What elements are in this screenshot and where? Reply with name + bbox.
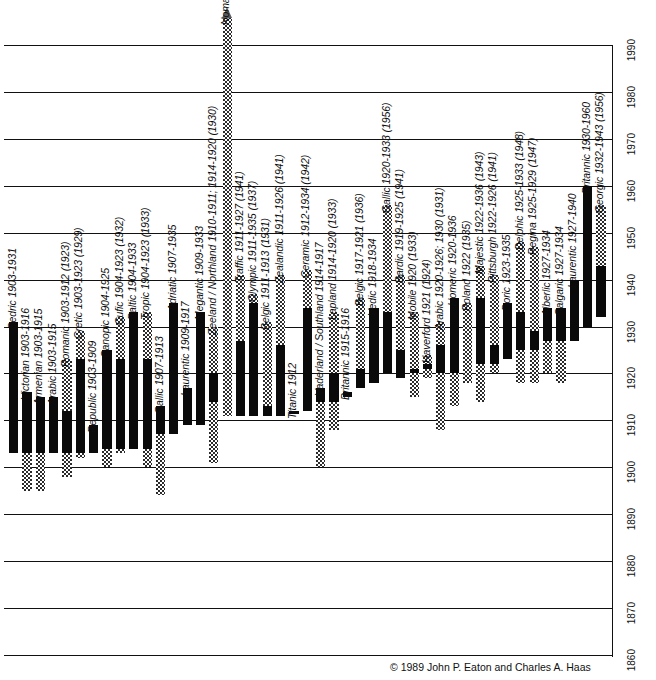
bar-label-2: Armenian 1903-1915 bbox=[32, 309, 44, 405]
bar-delphic-38 bbox=[516, 242, 525, 383]
bar-segment-later bbox=[276, 275, 285, 345]
bar-laurentic-42 bbox=[570, 280, 579, 341]
bar-alberlic-40 bbox=[543, 308, 552, 374]
plot-area: Cedric 1903-1931Victorian 1903-1916Armen… bbox=[0, 0, 612, 680]
bar-segment-early bbox=[36, 453, 45, 491]
bar-arabic-3 bbox=[49, 397, 58, 453]
bar-label-43: Britannic 1930-1960 bbox=[580, 102, 592, 194]
bar-segment-early bbox=[102, 449, 111, 468]
bar-homeric-33 bbox=[450, 298, 459, 406]
bar-label-5: Cretic 1903-1923 (1929) bbox=[72, 228, 84, 340]
bar-segment-early bbox=[209, 402, 218, 463]
bar-gallic-28 bbox=[383, 205, 392, 374]
bar-vaderland-southland-23 bbox=[316, 388, 325, 468]
bar-label-30: Mobile 1920 (1933) bbox=[406, 232, 418, 321]
bar-segment-service bbox=[570, 280, 579, 341]
y-tick-1910: 1910 bbox=[615, 414, 655, 426]
bar-segment-early bbox=[22, 453, 31, 491]
bar-label-44: Georgic 1932-1943 (1956) bbox=[593, 92, 605, 213]
bar-zeeland-northland-15 bbox=[209, 327, 218, 463]
bar-segment-service bbox=[263, 406, 272, 415]
bar-segment-service bbox=[196, 312, 205, 425]
bar-segment-early bbox=[423, 369, 432, 378]
bar-label-38: Delphic 1925-1933 (1948) bbox=[513, 131, 525, 250]
bar-segment-service bbox=[516, 312, 525, 350]
bar-label-28: Gallic 1920-1933 (1956) bbox=[380, 102, 392, 212]
bar-segment-service bbox=[476, 298, 485, 364]
bar-segment-service bbox=[209, 373, 218, 401]
bar-label-17: Traffic 1911-1927 (1941) bbox=[233, 171, 245, 283]
gridline-1890 bbox=[4, 514, 612, 515]
bar-romanic-4 bbox=[62, 359, 71, 476]
gridline-1980 bbox=[4, 92, 612, 93]
bar-megantic-14 bbox=[196, 312, 205, 425]
bar-label-29: Bardic 1919-1925 (1941) bbox=[393, 169, 405, 283]
bar-label-13: Laurentic 1909-1917 bbox=[179, 301, 191, 395]
bar-gallic-11 bbox=[156, 406, 165, 495]
bar-pittsburgh-36 bbox=[490, 275, 499, 374]
bar-label-3: Arabic 1903-1915 bbox=[46, 324, 58, 405]
bar-armenian-2 bbox=[36, 397, 45, 491]
bar-label-31: Haverford 1921 (1924) bbox=[420, 259, 432, 363]
bar-majestic-35 bbox=[476, 266, 485, 402]
bar-victorian-1 bbox=[22, 392, 31, 491]
y-tick-label: 1900 bbox=[626, 461, 637, 483]
bar-segment-service bbox=[249, 303, 258, 416]
bar-segment-early bbox=[143, 449, 152, 468]
bar-bardic-29 bbox=[396, 275, 405, 378]
bar-segment-early bbox=[450, 373, 459, 406]
bar-segment-service bbox=[49, 397, 58, 453]
y-tick-1890: 1890 bbox=[615, 508, 655, 520]
bar-calgaric-41 bbox=[556, 308, 565, 383]
gridline-1880 bbox=[4, 561, 612, 562]
bar-label-4: Romanic 1903-1912 (1923) bbox=[59, 242, 71, 367]
bar-label-24: Lapland 1914-1920 (1933) bbox=[326, 199, 338, 320]
bar-segment-service bbox=[9, 322, 18, 453]
copyright-credit: © 1989 John P. Eaton and Charles A. Haas bbox=[390, 661, 591, 673]
bar-label-16: Nomadic 1911-1927 (1989+) bbox=[219, 0, 231, 25]
bar-segment-service bbox=[530, 331, 539, 350]
bar-segment-early bbox=[436, 373, 445, 429]
bar-label-10: Tropic 1904-1923 (1933) bbox=[139, 208, 151, 321]
bar-segment-service bbox=[369, 308, 378, 383]
bar-label-18: Olympic 1911-1935 (1937) bbox=[246, 181, 258, 302]
bar-segment-early bbox=[516, 350, 525, 383]
bar-label-35: Majestic 1922-1936 (1943) bbox=[473, 151, 485, 273]
bar-segment-service bbox=[276, 345, 285, 415]
bar-label-33: Homeric 1920-1936 bbox=[446, 216, 458, 307]
bar-segment-service bbox=[450, 298, 459, 373]
y-tick-label: 1890 bbox=[626, 508, 637, 530]
bar-segment-service bbox=[102, 350, 111, 449]
bar-segment-later bbox=[223, 17, 232, 416]
y-tick-label: 1970 bbox=[626, 133, 637, 155]
bar-segment-early bbox=[490, 364, 499, 373]
bar-segment-early bbox=[62, 453, 71, 476]
bar-label-25: Britannic 1915-1916 bbox=[339, 308, 351, 400]
copyright-text: 1989 John P. Eaton and Charles A. Haas bbox=[401, 661, 591, 673]
bar-segment-early bbox=[476, 364, 485, 402]
bar-segment-later bbox=[490, 275, 499, 345]
chart-page: Cedric 1903-1931Victorian 1903-1916Armen… bbox=[0, 0, 656, 680]
bar-segment-service bbox=[383, 312, 392, 373]
y-tick-1990: 1990 bbox=[615, 39, 655, 51]
y-axis-line bbox=[612, 45, 613, 657]
bar-tropic-10 bbox=[143, 312, 152, 467]
bar-label-19: Belgic 1911-1913 (1931) bbox=[259, 218, 271, 330]
bar-label-23: Vaderland / Southland 1914-1917 bbox=[313, 242, 325, 396]
bar-label-1: Victorian 1903-1916 bbox=[19, 308, 31, 400]
bar-segment-service bbox=[236, 341, 245, 416]
bar-segment-service bbox=[76, 359, 85, 453]
bar-label-26: Belgic 1917-1921 (1936) bbox=[353, 194, 365, 307]
bar-cretic-5 bbox=[76, 331, 85, 458]
bar-nomadic-16 bbox=[223, 17, 232, 416]
y-tick-label: 1950 bbox=[626, 227, 637, 249]
bar-segment-service bbox=[396, 350, 405, 378]
y-tick-1930: 1930 bbox=[615, 321, 655, 333]
bar-segment-early bbox=[556, 341, 565, 383]
bar-poland-34 bbox=[463, 303, 472, 383]
bar-label-22: Ceramic 1912-1934 (1942) bbox=[299, 155, 311, 278]
bar-segment-service bbox=[490, 345, 499, 364]
bar-label-11: Gallic 1907-1913 bbox=[153, 337, 165, 415]
gridline-1870 bbox=[4, 608, 612, 609]
bar-label-39: Regina 1925-1929 (1947) bbox=[526, 137, 538, 254]
